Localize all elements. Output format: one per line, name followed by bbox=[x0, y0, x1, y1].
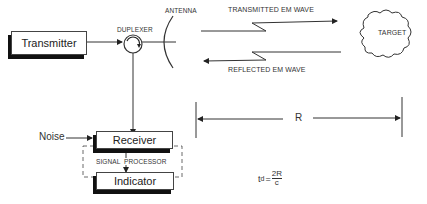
formula-fraction: 2R c bbox=[272, 170, 282, 187]
formula-denominator: c bbox=[275, 179, 279, 187]
range-label: R bbox=[295, 112, 302, 123]
formula-equals: = bbox=[265, 174, 270, 184]
duplexer-label: DUPLEXER bbox=[117, 26, 153, 33]
antenna-label: ANTENNA bbox=[165, 7, 197, 14]
delay-formula: t d = 2R c bbox=[258, 170, 282, 187]
noise-label: Noise bbox=[39, 131, 65, 142]
transmitted-wave-arrow bbox=[201, 21, 337, 31]
duplexer-icon bbox=[124, 35, 142, 53]
receiver-label: Receiver bbox=[113, 134, 156, 146]
target-label: TARGET bbox=[378, 29, 406, 36]
signal-processor-label: SIGNAL PROCESSOR bbox=[96, 158, 166, 165]
reflected-wave-arrow bbox=[204, 52, 341, 61]
transmitter-label: Transmitter bbox=[21, 37, 76, 49]
radar-diagram: Transmitter DUPLEXER ANTENNA TRANSMITTED… bbox=[0, 0, 427, 204]
reflected-wave-label: REFLECTED EM WAVE bbox=[228, 66, 306, 73]
transmitted-wave-label: TRANSMITTED EM WAVE bbox=[228, 6, 314, 13]
receiver-block: Receiver bbox=[96, 131, 173, 149]
transmitter-block: Transmitter bbox=[11, 31, 87, 55]
indicator-label: Indicator bbox=[114, 175, 156, 187]
indicator-block: Indicator bbox=[96, 172, 174, 190]
formula-subscript: d bbox=[261, 175, 265, 182]
